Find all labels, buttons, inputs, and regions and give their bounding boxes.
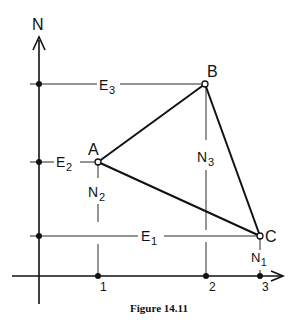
point-c-label: C — [265, 228, 277, 245]
svg-text:3: 3 — [208, 156, 214, 168]
svg-text:1: 1 — [261, 257, 267, 268]
tick-label-1: 1 — [100, 280, 107, 294]
label-n2: N 2 — [88, 184, 105, 203]
n-axis-label: N — [32, 16, 44, 33]
tick-label-3: 3 — [262, 280, 269, 294]
reference-lines — [30, 84, 260, 276]
triangle-abc — [98, 84, 260, 236]
point-c-marker — [257, 233, 263, 239]
svg-text:1: 1 — [151, 235, 157, 247]
label-n3: N 3 — [197, 149, 214, 168]
svg-text:N: N — [197, 149, 207, 165]
point-a-label: A — [88, 141, 99, 158]
vertex-markers — [95, 81, 263, 239]
point-b-label: B — [207, 63, 218, 80]
figure-caption: Figure 14.11 — [130, 302, 188, 314]
svg-text:E: E — [99, 77, 108, 93]
svg-text:N: N — [251, 250, 260, 265]
point-a-marker — [95, 159, 101, 165]
label-e2: E 2 — [56, 154, 72, 173]
figure-diagram: N A B C E 3 E 2 E 1 N 2 N 3 N 1 1 2 3 Fi… — [0, 0, 300, 322]
point-b-marker — [202, 81, 208, 87]
tick-label-2: 2 — [209, 280, 216, 294]
svg-text:N: N — [88, 184, 98, 200]
label-n1: N 1 — [251, 250, 267, 268]
svg-text:2: 2 — [66, 161, 72, 173]
label-e3: E 3 — [99, 77, 115, 96]
svg-text:3: 3 — [109, 84, 115, 96]
axes — [12, 37, 283, 304]
svg-text:E: E — [141, 228, 150, 244]
axis-dots — [36, 81, 263, 279]
svg-text:2: 2 — [99, 191, 105, 203]
label-e1: E 1 — [141, 228, 157, 247]
svg-text:E: E — [56, 154, 65, 170]
